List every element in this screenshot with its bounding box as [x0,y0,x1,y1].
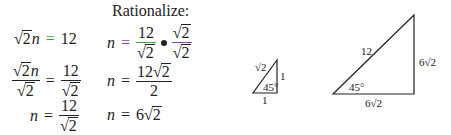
large-angle-label: 45° [349,81,364,93]
large-hypotenuse-label: 12 [361,45,372,57]
small-horizontal-label: 1 [262,94,268,106]
small-triangle: √2 1 1 45° [253,60,286,106]
triangles-diagram: √2 1 1 45° 12 6√2 6√2 45° [0,0,451,135]
small-hypotenuse-label: √2 [255,61,267,73]
large-vertical-label: 6√2 [419,56,436,68]
large-triangle: 12 6√2 6√2 45° [333,15,436,109]
large-horizontal-label: 6√2 [365,97,382,109]
small-vertical-label: 1 [280,70,286,82]
small-angle-label: 45° [263,81,278,93]
